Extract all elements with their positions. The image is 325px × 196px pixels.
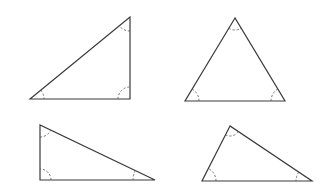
triangle-outline xyxy=(185,18,285,101)
triangle-top-left xyxy=(30,17,130,99)
angle-mark-arc xyxy=(133,171,135,180)
angle-mark-arc xyxy=(208,169,216,181)
angle-mark-arc xyxy=(229,28,241,30)
angle-mark-arc xyxy=(271,89,278,101)
angle-mark-arc xyxy=(119,26,130,31)
triangle-bottom-right xyxy=(202,126,312,181)
triangle-outline xyxy=(30,17,130,99)
triangles-figure xyxy=(0,0,325,196)
triangle-bottom-left xyxy=(40,125,155,180)
angle-mark-arc xyxy=(40,169,51,180)
triangle-outline xyxy=(40,125,155,180)
angle-mark-arc xyxy=(192,89,199,101)
triangle-top-right xyxy=(185,18,285,101)
angle-mark-arc xyxy=(41,90,44,99)
angle-mark-arc xyxy=(118,87,130,99)
angle-mark-arc xyxy=(40,130,51,137)
angle-mark-arc xyxy=(296,172,299,181)
triangle-outline xyxy=(202,126,312,181)
